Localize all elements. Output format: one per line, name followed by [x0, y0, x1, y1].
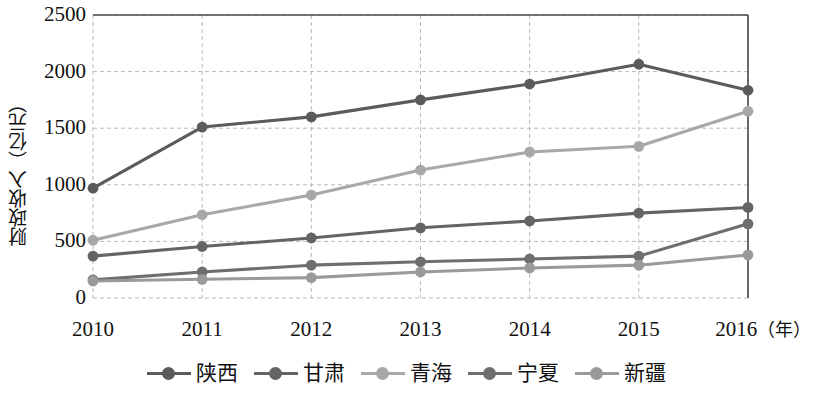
legend-marker-icon	[468, 366, 512, 380]
line-chart: 财政收入（亿元） 05001000150020002500 2010201120…	[0, 0, 816, 397]
x-tick-label: 2016（年）	[715, 318, 811, 341]
data-point	[524, 263, 535, 274]
x-axis-tick-labels: 2010201120122013201420152016（年）	[0, 312, 816, 348]
data-point	[633, 59, 644, 70]
x-tick-label: 2014	[509, 318, 551, 341]
data-point	[415, 165, 426, 176]
data-point	[306, 111, 317, 122]
data-point	[306, 272, 317, 283]
legend-label: 青海	[410, 363, 452, 384]
data-point	[524, 216, 535, 227]
data-point	[524, 79, 535, 90]
data-point	[415, 95, 426, 106]
legend-dot-icon	[483, 367, 496, 380]
legend-marker-icon	[147, 366, 191, 380]
legend-item-青海[interactable]: 青海	[361, 363, 456, 384]
legend-dot-icon	[376, 367, 389, 380]
legend-item-甘肃[interactable]: 甘肃	[254, 363, 349, 384]
x-tick-label-text: 2016	[715, 317, 757, 341]
data-point	[197, 241, 208, 252]
data-point	[743, 250, 754, 261]
data-point	[633, 141, 644, 152]
data-point	[88, 251, 99, 262]
legend-marker-icon	[361, 366, 405, 380]
data-point	[743, 218, 754, 229]
legend-label: 陕西	[196, 363, 238, 384]
data-point	[743, 202, 754, 213]
data-point	[415, 222, 426, 233]
gridlines	[93, 15, 748, 298]
legend-item-陕西[interactable]: 陕西	[147, 363, 242, 384]
x-tick-label: 2010	[72, 318, 114, 341]
data-point	[743, 85, 754, 96]
data-point	[743, 106, 754, 117]
x-axis-unit-label: （年）	[757, 319, 811, 340]
legend-marker-icon	[575, 366, 619, 380]
data-point	[197, 122, 208, 133]
legend-label: 宁夏	[517, 363, 559, 384]
x-tick-label: 2013	[400, 318, 442, 341]
legend-item-宁夏[interactable]: 宁夏	[468, 363, 563, 384]
data-point	[306, 233, 317, 244]
legend-dot-icon	[269, 367, 282, 380]
legend-dot-icon	[590, 367, 603, 380]
data-point	[524, 147, 535, 158]
legend: 陕西甘肃青海宁夏新疆	[0, 352, 816, 394]
data-point	[633, 208, 644, 219]
legend-label: 甘肃	[303, 363, 345, 384]
data-point	[415, 256, 426, 267]
data-point	[88, 235, 99, 246]
data-point	[306, 190, 317, 201]
data-point	[306, 260, 317, 271]
x-tick-label: 2012	[290, 318, 332, 341]
x-tick-label: 2015	[618, 318, 660, 341]
x-tick-label: 2011	[182, 318, 223, 341]
data-point	[197, 274, 208, 285]
data-point	[415, 267, 426, 278]
data-point	[88, 276, 99, 287]
data-point	[633, 260, 644, 271]
legend-label: 新疆	[624, 363, 666, 384]
legend-item-新疆[interactable]: 新疆	[575, 363, 670, 384]
data-point	[88, 183, 99, 194]
data-point	[197, 209, 208, 220]
legend-dot-icon	[162, 367, 175, 380]
legend-marker-icon	[254, 366, 298, 380]
